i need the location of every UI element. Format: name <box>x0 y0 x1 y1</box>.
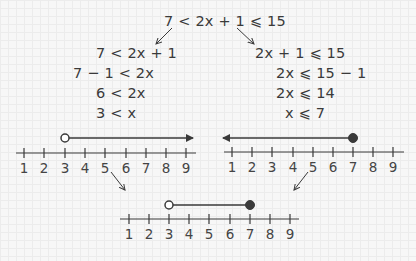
left-number-line <box>16 134 196 158</box>
tick-label: 6 <box>122 160 131 176</box>
tick-label: 3 <box>165 226 174 242</box>
tick-label: 8 <box>266 226 275 242</box>
tick-label: 9 <box>182 160 191 176</box>
tick-label: 9 <box>286 226 295 242</box>
tick-label: 4 <box>185 226 194 242</box>
tick-label: 2 <box>145 226 154 242</box>
tick-label: 3 <box>268 159 277 175</box>
tick-label: 2 <box>248 159 257 175</box>
arrow-to-left-branch <box>156 28 172 44</box>
tick-label: 2 <box>40 160 49 176</box>
combined-number-line <box>120 201 299 225</box>
diagram-lines <box>0 0 416 261</box>
right-number-line <box>223 134 404 158</box>
tick-label: 4 <box>81 160 90 176</box>
tick-label: 4 <box>289 159 298 175</box>
tick-label: 9 <box>389 159 398 175</box>
tick-label: 5 <box>309 159 318 175</box>
open-circle-3-combined <box>165 201 173 209</box>
tick-label: 1 <box>20 160 29 176</box>
tick-label: 7 <box>246 226 255 242</box>
tick-label: 1 <box>125 226 134 242</box>
tick-label: 3 <box>61 160 70 176</box>
closed-circle-7 <box>349 134 358 143</box>
tick-label: 1 <box>228 159 237 175</box>
flow-arrows <box>111 28 308 190</box>
tick-label: 5 <box>101 160 110 176</box>
open-circle-3 <box>61 134 69 142</box>
tick-label: 6 <box>329 159 338 175</box>
arrow-to-right-branch <box>237 28 254 44</box>
tick-label: 6 <box>226 226 235 242</box>
tick-label: 8 <box>162 160 171 176</box>
tick-label: 7 <box>142 160 151 176</box>
tick-label: 5 <box>205 226 214 242</box>
tick-label: 8 <box>369 159 378 175</box>
tick-label: 7 <box>349 159 358 175</box>
closed-circle-7-combined <box>246 201 255 210</box>
